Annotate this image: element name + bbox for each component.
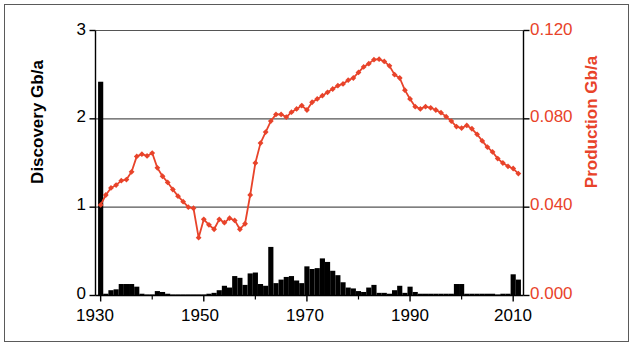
y-tick-label-3: 3 <box>52 20 86 40</box>
y2-tick-label-0080: 0.080 <box>530 107 590 127</box>
axis-lines <box>96 31 524 296</box>
y-axis-title-left: Discovery Gb/a <box>28 22 48 222</box>
y-tick-label-2: 2 <box>52 107 86 127</box>
chart-figure: Discovery Gb/a Production Gb/a 3 2 1 0 0… <box>0 0 633 346</box>
production-line <box>98 56 521 240</box>
x-tick-label-2010: 2010 <box>483 306 543 326</box>
gridlines <box>96 31 524 208</box>
x-tick-label-1930: 1930 <box>65 306 125 326</box>
y-tick-label-1: 1 <box>52 195 86 215</box>
y-tick-label-0: 0 <box>52 284 86 304</box>
y2-tick-label-0120: 0.120 <box>530 20 590 40</box>
axis-ticks <box>90 31 530 302</box>
y2-tick-label-0040: 0.040 <box>530 195 590 215</box>
x-tick-label-1970: 1970 <box>275 306 335 326</box>
discovery-bars <box>98 82 521 296</box>
x-tick-label-1990: 1990 <box>380 306 440 326</box>
y2-tick-label-0000: 0.000 <box>530 284 590 304</box>
x-tick-label-1950: 1950 <box>170 306 230 326</box>
